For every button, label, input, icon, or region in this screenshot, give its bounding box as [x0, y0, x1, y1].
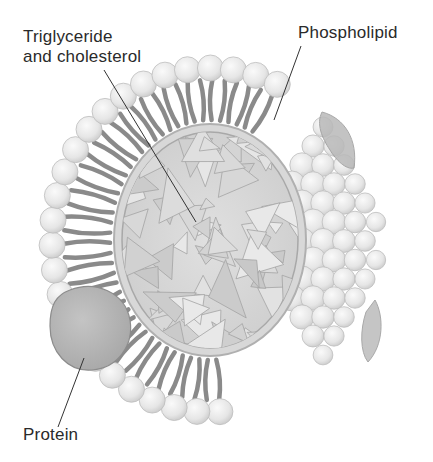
lipoprotein-diagram	[0, 0, 433, 462]
label-triglyceride-line1: Triglyceride	[23, 27, 141, 47]
protein-lower-right	[362, 300, 381, 362]
label-protein: Protein	[23, 425, 78, 445]
protein-leader-line	[58, 358, 84, 427]
protein-left	[50, 287, 131, 371]
label-phospholipid: Phospholipid	[298, 23, 398, 43]
label-triglyceride-cholesterol: Triglyceride and cholesterol	[23, 27, 141, 67]
label-triglyceride-line2: and cholesterol	[23, 47, 141, 67]
